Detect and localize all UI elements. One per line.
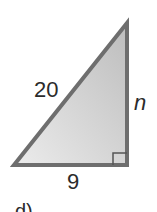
horizontal-leg-label: 9 xyxy=(67,169,79,194)
part-label: d) xyxy=(15,200,33,212)
vertical-leg-label: n xyxy=(134,90,146,115)
triangle-diagram: 20 n 9 d) xyxy=(0,0,157,212)
right-triangle xyxy=(14,23,127,165)
hypotenuse-label: 20 xyxy=(34,77,58,102)
